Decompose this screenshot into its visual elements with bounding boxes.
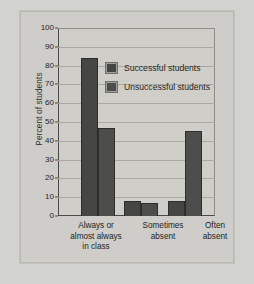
y-tick-label-80: 80 <box>45 62 54 70</box>
chart-legend: Successful studentsUnsuccessful students <box>105 59 233 97</box>
y-tickmark-0 <box>55 216 58 217</box>
legend-swatch-icon <box>105 81 118 93</box>
y-tick-label-30: 30 <box>45 156 54 164</box>
bar-unsuccessful-group-2 <box>141 203 158 216</box>
category-label-line: absent <box>151 232 176 241</box>
gridline-90 <box>58 47 215 48</box>
category-label-line: almost always <box>70 232 121 241</box>
bar-unsuccessful-group-1 <box>98 128 115 216</box>
y-axis-title: Percent of students <box>34 44 44 174</box>
legend-label: Unsuccessful students <box>124 82 210 92</box>
gridline-100 <box>58 28 215 29</box>
legend-item-successful: Successful students <box>105 59 233 76</box>
y-tickmark-40 <box>55 140 58 141</box>
bar-unsuccessful-group-3 <box>185 131 202 216</box>
legend-item-unsuccessful: Unsuccessful students <box>105 78 233 95</box>
y-tickmark-100 <box>55 28 58 29</box>
y-tick-label-20: 20 <box>45 174 54 182</box>
y-tickmark-10 <box>55 197 58 198</box>
y-tickmark-90 <box>55 46 58 47</box>
y-tick-label-90: 90 <box>45 43 54 51</box>
y-tickmark-50 <box>55 122 58 123</box>
scanned-page-surface: Percent of students 01020304050607080901… <box>0 0 254 284</box>
category-label-line: absent <box>203 232 228 241</box>
y-tick-label-0: 0 <box>50 212 54 220</box>
x-axis-category-label-2: Sometimesabsent <box>133 221 193 242</box>
y-tick-label-40: 40 <box>45 137 54 145</box>
legend-label: Successful students <box>124 63 200 73</box>
y-tickmark-60 <box>55 103 58 104</box>
category-label-line: Often <box>205 221 225 230</box>
y-tick-label-10: 10 <box>45 193 54 201</box>
y-tickmark-30 <box>55 159 58 160</box>
category-label-line: Always or <box>78 221 114 230</box>
y-tickmark-80 <box>55 65 58 66</box>
y-tick-label-100: 100 <box>41 24 54 32</box>
category-label-line: in class <box>82 242 109 251</box>
x-axis-category-label-1: Always oralmost alwaysin class <box>60 221 132 253</box>
bar-successful-group-2 <box>124 201 141 216</box>
bar-successful-group-1 <box>81 58 98 216</box>
x-axis-category-label-3: Oftenabsent <box>191 221 239 242</box>
bar-successful-group-3 <box>168 201 185 216</box>
chart-figure-panel: Percent of students 01020304050607080901… <box>20 11 234 263</box>
y-tickmark-20 <box>55 178 58 179</box>
category-label-line: Sometimes <box>143 221 184 230</box>
y-tickmark-70 <box>55 84 58 85</box>
legend-swatch-icon <box>105 62 118 74</box>
y-tick-label-70: 70 <box>45 80 54 88</box>
y-tick-label-50: 50 <box>45 118 54 126</box>
y-tick-label-60: 60 <box>45 99 54 107</box>
plot-area: 0102030405060708090100 <box>58 28 215 216</box>
